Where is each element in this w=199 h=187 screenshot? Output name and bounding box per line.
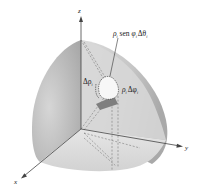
delta-rho-label: Δρi [83,77,93,87]
x-axis-label: x [13,178,18,186]
z-axis-label: z [77,7,81,15]
spherical-coordinates-diagram: z y x ρi sen φiΔθi Δρi ρiΔφi [0,0,199,187]
arc-theta-label: ρi sen φiΔθi [112,29,147,39]
arc-phi-label: ρiΔφi [121,85,138,95]
y-axis-label: y [184,144,189,152]
y-arrow-icon [176,144,183,148]
z-arrow-icon [79,16,83,22]
